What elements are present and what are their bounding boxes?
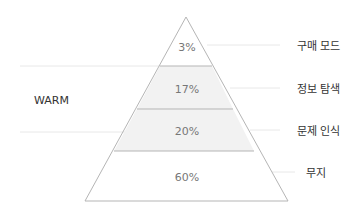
funnel-pyramid-diagram: 3% 17% 20% 60% 구매 모드 정보 탐색 문제 인식 무지 WARM <box>0 0 356 216</box>
stage-label-level-3: 문제 인식 <box>297 125 341 138</box>
warm-group-label: WARM <box>34 94 69 107</box>
percent-level-2: 17% <box>175 83 199 96</box>
stage-label-level-1: 구매 모드 <box>297 40 341 53</box>
percent-level-4: 60% <box>175 171 199 184</box>
percent-level-1: 3% <box>178 41 195 54</box>
stage-label-level-4: 무지 <box>306 167 326 180</box>
percent-level-3: 20% <box>175 125 199 138</box>
stage-label-level-2: 정보 탐색 <box>297 83 341 96</box>
